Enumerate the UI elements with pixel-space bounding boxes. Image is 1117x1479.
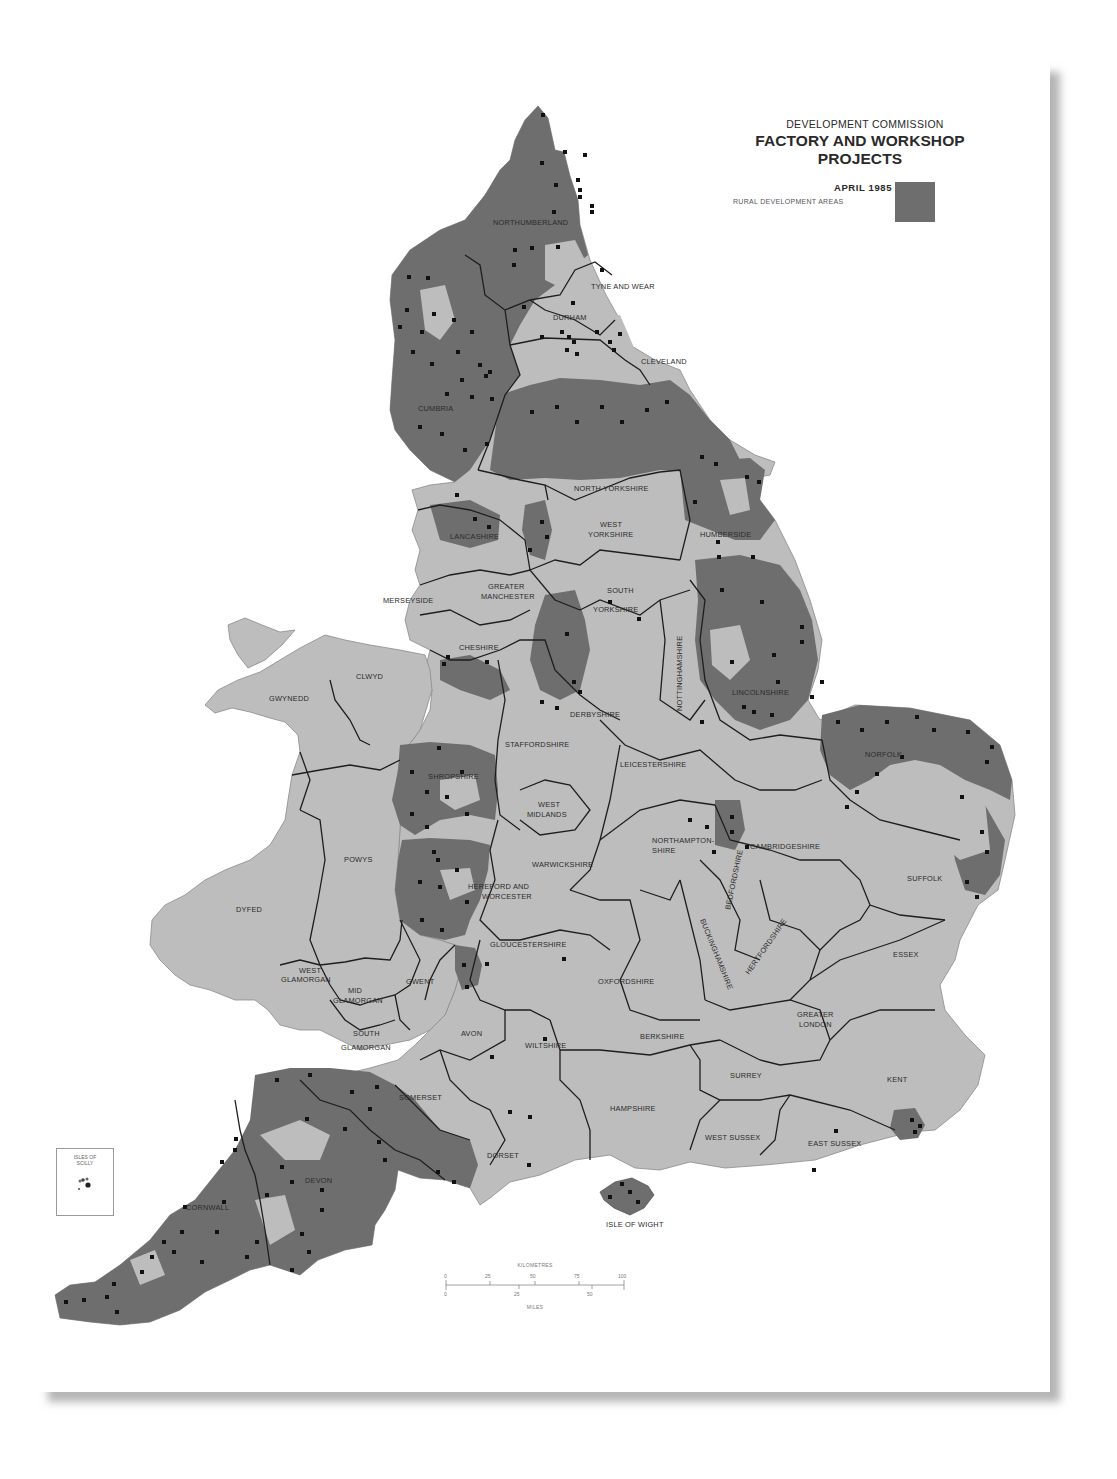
- county-label: NORTH YORKSHIRE: [574, 484, 649, 493]
- county-label: SOUTH: [353, 1029, 380, 1038]
- county-label: CORNWALL: [186, 1203, 229, 1212]
- county-label: CHESHIRE: [459, 643, 499, 652]
- county-label: WEST: [299, 966, 321, 975]
- county-label: NORFOLK: [865, 750, 902, 759]
- county-label: DEVON: [305, 1176, 332, 1185]
- county-label: SUFFOLK: [907, 874, 942, 883]
- county-label: WARWICKSHIRE: [532, 860, 593, 869]
- county-label: GLAMORGAN: [281, 975, 331, 984]
- county-label: WILTSHIRE: [525, 1041, 567, 1050]
- county-label: TYNE AND WEAR: [591, 282, 655, 291]
- county-label: MERSEYSIDE: [383, 596, 433, 605]
- county-label: MID: [348, 986, 362, 995]
- county-label: OXFORDSHIRE: [598, 977, 654, 986]
- county-label: HEREFORD AND: [468, 882, 529, 891]
- county-label: ESSEX: [893, 950, 919, 959]
- scale-miles-label: MILES: [440, 1304, 630, 1310]
- county-label: SHROPSHIRE: [428, 772, 479, 781]
- legend-swatch-rural-development-areas: [895, 182, 935, 222]
- county-label: GWENT: [406, 977, 435, 986]
- county-label: GREATER: [797, 1010, 834, 1019]
- county-label: HAMPSHIRE: [610, 1104, 656, 1113]
- county-label: WEST: [538, 800, 560, 809]
- county-label: LONDON: [799, 1020, 832, 1029]
- km-tick: 25: [485, 1273, 491, 1279]
- mile-tick: 25: [514, 1291, 520, 1297]
- county-label: BERKSHIRE: [640, 1032, 685, 1041]
- county-label: WORCESTER: [482, 892, 532, 901]
- scale-bar: KILOMETRES 0 25 50 75 100 0 25 50 MILES: [440, 1262, 630, 1312]
- legend-label: RURAL DEVELOPMENT AREAS: [733, 198, 843, 205]
- legend: RURAL DEVELOPMENT AREAS: [733, 180, 943, 225]
- scilly-islands-icon: [57, 1149, 113, 1215]
- county-label: GLAMORGAN: [333, 996, 383, 1005]
- county-label: AVON: [461, 1029, 482, 1038]
- county-label: CAMBRIDGESHIRE: [750, 842, 820, 851]
- county-label: SOUTH: [607, 586, 634, 595]
- county-label: DURHAM: [553, 313, 587, 322]
- county-label: LINCOLNSHIRE: [732, 688, 789, 697]
- county-label: SHIRE: [652, 846, 676, 855]
- county-label: NORTHUMBERLAND: [493, 218, 568, 227]
- county-label: GWYNEDD: [269, 694, 309, 703]
- county-label: KENT: [887, 1075, 908, 1084]
- county-label: GLOUCESTERSHIRE: [490, 940, 567, 949]
- map-title: FACTORY AND WORKSHOP PROJECTS: [720, 132, 1000, 168]
- county-label: POWYS: [344, 855, 373, 864]
- county-label: NORTHAMPTON-: [652, 836, 715, 845]
- county-label: DORSET: [487, 1151, 519, 1160]
- county-label: SOMERSET: [399, 1093, 442, 1102]
- county-label: HUMBERSIDE: [700, 530, 751, 539]
- map-canvas: LO: [0, 0, 1117, 1479]
- county-label: LANCASHIRE: [450, 532, 499, 541]
- county-label: WEST SUSSEX: [705, 1133, 760, 1142]
- county-label: SURREY: [730, 1071, 762, 1080]
- county-label: YORKSHIRE: [593, 605, 638, 614]
- county-label: GLAMORGAN: [341, 1043, 391, 1052]
- county-label: MIDLANDS: [527, 810, 567, 819]
- county-label: YORKSHIRE: [588, 530, 633, 539]
- county-label: DERBYSHIRE: [570, 710, 620, 719]
- county-label: CLWYD: [356, 672, 383, 681]
- county-label: MANCHESTER: [481, 592, 535, 601]
- county-label: CLEVELAND: [641, 357, 687, 366]
- organisation-heading: DEVELOPMENT COMMISSION: [730, 118, 1000, 130]
- mile-tick: 0: [444, 1291, 447, 1297]
- county-label: NOTTINGHAMSHIRE: [675, 636, 684, 711]
- km-tick: 75: [574, 1273, 580, 1279]
- county-label: CUMBRIA: [418, 404, 453, 413]
- km-tick: 50: [530, 1273, 536, 1279]
- county-label: LEICESTERSHIRE: [620, 760, 686, 769]
- isles-of-scilly-inset: ISLES OF SCILLY: [56, 1148, 114, 1216]
- county-label: EAST SUSSEX: [808, 1139, 861, 1148]
- county-label: STAFFORDSHIRE: [505, 740, 569, 749]
- mile-tick: 50: [587, 1291, 593, 1297]
- county-label: DYFED: [236, 905, 262, 914]
- county-label: WEST: [600, 520, 622, 529]
- km-tick: 0: [444, 1273, 447, 1279]
- county-label: GREATER: [488, 582, 525, 591]
- km-tick: 100: [618, 1273, 626, 1279]
- county-label: ISLE OF WIGHT: [606, 1220, 664, 1229]
